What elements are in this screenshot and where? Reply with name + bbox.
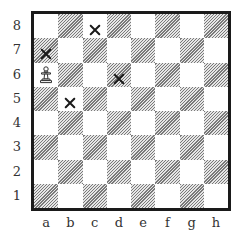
square-c7 — [83, 38, 107, 62]
square-g8 — [180, 14, 204, 38]
square-e3 — [131, 135, 155, 159]
square-h2 — [204, 160, 228, 184]
file-label-c: c — [83, 216, 107, 230]
square-d3 — [107, 135, 131, 159]
square-e6 — [131, 63, 155, 87]
square-h1 — [204, 184, 228, 208]
rank-label-6: 6 — [10, 68, 24, 82]
file-label-d: d — [107, 216, 131, 230]
file-label-a: a — [34, 216, 58, 230]
square-c4 — [83, 111, 107, 135]
square-d6 — [107, 63, 131, 87]
square-g7 — [180, 38, 204, 62]
square-c6 — [83, 63, 107, 87]
square-e2 — [131, 160, 155, 184]
file-label-b: b — [58, 216, 82, 230]
square-f8 — [155, 14, 179, 38]
rank-label-3: 3 — [10, 140, 24, 154]
file-label-h: h — [204, 216, 228, 230]
square-f7 — [155, 38, 179, 62]
square-c2 — [83, 160, 107, 184]
rank-label-8: 8 — [10, 19, 24, 33]
rank-label-4: 4 — [10, 116, 24, 130]
square-b2 — [58, 160, 82, 184]
square-h6 — [204, 63, 228, 87]
square-a3 — [34, 135, 58, 159]
square-f3 — [155, 135, 179, 159]
file-label-g: g — [180, 216, 204, 230]
square-f4 — [155, 111, 179, 135]
square-c3 — [83, 135, 107, 159]
square-d2 — [107, 160, 131, 184]
x-mark-icon — [113, 69, 124, 80]
square-h3 — [204, 135, 228, 159]
rank-label-1: 1 — [10, 189, 24, 203]
file-label-e: e — [131, 216, 155, 230]
square-d1 — [107, 184, 131, 208]
square-b5 — [58, 87, 82, 111]
x-mark-icon — [89, 21, 100, 32]
square-h8 — [204, 14, 228, 38]
square-g1 — [180, 184, 204, 208]
square-d4 — [107, 111, 131, 135]
square-d5 — [107, 87, 131, 111]
square-b4 — [58, 111, 82, 135]
square-a8 — [34, 14, 58, 38]
square-f1 — [155, 184, 179, 208]
square-a1 — [34, 184, 58, 208]
square-h7 — [204, 38, 228, 62]
square-e1 — [131, 184, 155, 208]
chessboard — [31, 11, 231, 211]
square-g5 — [180, 87, 204, 111]
file-label-f: f — [155, 216, 179, 230]
square-f2 — [155, 160, 179, 184]
rank-label-5: 5 — [10, 92, 24, 106]
square-d7 — [107, 38, 131, 62]
square-e4 — [131, 111, 155, 135]
square-h5 — [204, 87, 228, 111]
square-f5 — [155, 87, 179, 111]
square-b6 — [58, 63, 82, 87]
square-a4 — [34, 111, 58, 135]
square-e5 — [131, 87, 155, 111]
square-a7 — [34, 38, 58, 62]
square-e8 — [131, 14, 155, 38]
square-h4 — [204, 111, 228, 135]
square-a2 — [34, 160, 58, 184]
square-a5 — [34, 87, 58, 111]
rank-label-2: 2 — [10, 165, 24, 179]
white-pawn-icon — [38, 66, 54, 84]
square-c8 — [83, 14, 107, 38]
square-c1 — [83, 184, 107, 208]
square-b8 — [58, 14, 82, 38]
square-g6 — [180, 63, 204, 87]
square-c5 — [83, 87, 107, 111]
x-mark-icon — [41, 45, 52, 56]
square-g2 — [180, 160, 204, 184]
square-b7 — [58, 38, 82, 62]
square-a6 — [34, 63, 58, 87]
square-g3 — [180, 135, 204, 159]
square-g4 — [180, 111, 204, 135]
square-f6 — [155, 63, 179, 87]
x-mark-icon — [65, 93, 76, 104]
square-e7 — [131, 38, 155, 62]
square-b3 — [58, 135, 82, 159]
rank-label-7: 7 — [10, 43, 24, 57]
square-b1 — [58, 184, 82, 208]
square-d8 — [107, 14, 131, 38]
